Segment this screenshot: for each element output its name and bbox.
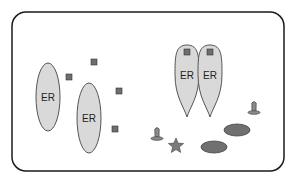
dark-ellipse	[201, 141, 227, 153]
square-particle	[66, 74, 72, 80]
dark-ellipse	[224, 124, 250, 136]
star-group	[168, 138, 183, 152]
er-label: ER	[180, 70, 194, 81]
square-particle	[207, 49, 213, 55]
square-particle	[116, 88, 122, 94]
square-particle	[91, 59, 97, 65]
square-particle	[112, 126, 118, 132]
dark-ellipse-group	[201, 124, 250, 153]
budding-er: ER	[198, 45, 222, 117]
cone-shape	[151, 128, 163, 141]
budding-er-group: ERER	[175, 45, 222, 117]
cone-shape	[248, 102, 260, 115]
square-particle	[184, 49, 190, 55]
diagram-canvas: ERER ERER	[0, 0, 299, 183]
er-ellipse: ER	[77, 83, 101, 153]
er-label: ER	[41, 92, 55, 103]
er-label: ER	[82, 113, 96, 124]
er-label: ER	[203, 70, 217, 81]
budding-er: ER	[175, 45, 199, 117]
star-shape	[168, 138, 183, 152]
er-ellipse: ER	[36, 63, 60, 131]
